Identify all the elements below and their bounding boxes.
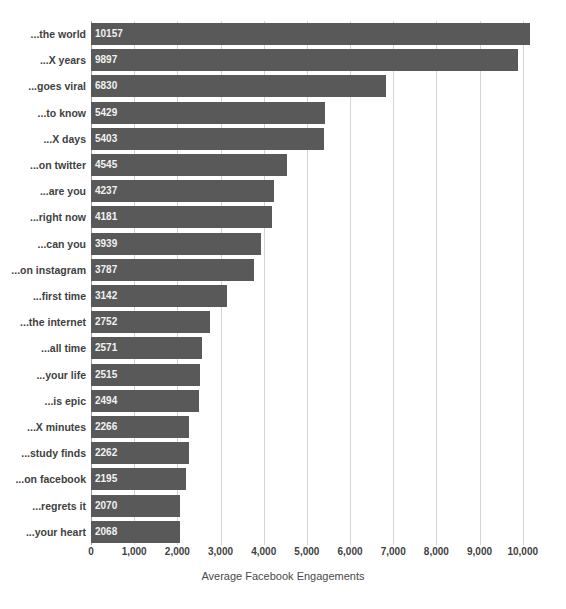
- bar-value-label: 2195: [95, 468, 117, 490]
- y-axis-label: ...the internet: [5, 309, 91, 335]
- table-row: 2494: [91, 388, 540, 414]
- bar: 2266: [91, 416, 189, 438]
- table-row: 3939: [91, 231, 540, 257]
- bar-value-label: 5403: [95, 128, 117, 150]
- table-row: 2266: [91, 414, 540, 440]
- bar: 2752: [91, 311, 210, 333]
- y-axis-label: ...your life: [5, 362, 91, 388]
- y-axis-label: ...on twitter: [5, 152, 91, 178]
- table-row: 10157: [91, 21, 540, 47]
- table-row: 5403: [91, 126, 540, 152]
- y-axis-label: ...your heart: [5, 519, 91, 545]
- y-axis-label: ...all time: [5, 335, 91, 361]
- bar-value-label: 10157: [95, 23, 123, 45]
- y-axis-label: ...are you: [5, 178, 91, 204]
- table-row: 2195: [91, 466, 540, 492]
- x-axis-tick-label: 2,000: [165, 546, 190, 557]
- bar: 4545: [91, 154, 287, 176]
- x-axis-tick-label: 0: [88, 546, 94, 557]
- bar-value-label: 2266: [95, 416, 117, 438]
- table-row: 6830: [91, 73, 540, 99]
- table-row: 2262: [91, 440, 540, 466]
- y-axis-label: ...can you: [5, 231, 91, 257]
- bar: 5403: [91, 128, 324, 150]
- x-axis-tick-label: 8,000: [424, 546, 449, 557]
- bar: 3787: [91, 259, 254, 281]
- bar-value-label: 4237: [95, 180, 117, 202]
- bar: 2515: [91, 364, 200, 386]
- bar: 2068: [91, 521, 180, 543]
- bar-value-label: 2262: [95, 442, 117, 464]
- bar-value-label: 5429: [95, 102, 117, 124]
- table-row: 5429: [91, 100, 540, 126]
- bar: 6830: [91, 75, 386, 97]
- table-row: 2571: [91, 335, 540, 361]
- bar-chart: ...the world...X years...goes viral...to…: [0, 0, 566, 609]
- bar: 2070: [91, 495, 180, 517]
- x-axis-tick-label: 7,000: [381, 546, 406, 557]
- bar-value-label: 2752: [95, 311, 117, 333]
- bar-value-label: 6830: [95, 75, 117, 97]
- bar-rows: 1015798976830542954034545423741813939378…: [91, 21, 540, 545]
- x-axis-ticks: 01,0002,0003,0004,0005,0006,0007,0008,00…: [91, 546, 540, 564]
- bar-value-label: 4181: [95, 206, 117, 228]
- x-axis-title: Average Facebook Engagements: [0, 570, 566, 582]
- bar-value-label: 2515: [95, 364, 117, 386]
- table-row: 2752: [91, 309, 540, 335]
- y-axis-label: ...first time: [5, 283, 91, 309]
- bar-value-label: 2571: [95, 337, 117, 359]
- y-axis-label: ...to know: [5, 100, 91, 126]
- bar-value-label: 3939: [95, 233, 117, 255]
- y-axis-label: ...the world: [5, 21, 91, 47]
- y-axis-label: ...X years: [5, 47, 91, 73]
- x-axis-tick-label: 10,000: [507, 546, 538, 557]
- y-axis-label: ...on facebook: [5, 466, 91, 492]
- bar: 4237: [91, 180, 274, 202]
- plot-area: 1015798976830542954034545423741813939378…: [91, 21, 540, 545]
- x-axis-tick-label: 4,000: [251, 546, 276, 557]
- table-row: 3787: [91, 257, 540, 283]
- table-row: 2070: [91, 493, 540, 519]
- bar-value-label: 3142: [95, 285, 117, 307]
- x-axis-tick-label: 1,000: [122, 546, 147, 557]
- bar-value-label: 3787: [95, 259, 117, 281]
- y-axis-label: ...goes viral: [5, 73, 91, 99]
- y-axis-label: ...X days: [5, 126, 91, 152]
- bar: 3142: [91, 285, 227, 307]
- x-axis-tick-label: 6,000: [338, 546, 363, 557]
- bar: 2494: [91, 390, 199, 412]
- y-axis-label: ...regrets it: [5, 493, 91, 519]
- bar: 2262: [91, 442, 189, 464]
- bar: 10157: [91, 23, 530, 45]
- table-row: 4237: [91, 178, 540, 204]
- y-axis-label: ...study finds: [5, 440, 91, 466]
- bar: 2195: [91, 468, 186, 490]
- bar: 9897: [91, 49, 518, 71]
- x-axis-tick-label: 5,000: [294, 546, 319, 557]
- table-row: 4545: [91, 152, 540, 178]
- bar: 3939: [91, 233, 261, 255]
- table-row: 3142: [91, 283, 540, 309]
- y-axis-category-labels: ...the world...X years...goes viral...to…: [0, 21, 91, 545]
- y-axis-label: ...right now: [5, 204, 91, 230]
- bar-value-label: 2070: [95, 495, 117, 517]
- x-axis-tick-label: 3,000: [208, 546, 233, 557]
- bar: 5429: [91, 102, 325, 124]
- bar-value-label: 9897: [95, 49, 117, 71]
- y-axis-label: ...on instagram: [5, 257, 91, 283]
- bar: 4181: [91, 206, 272, 228]
- bar-value-label: 2068: [95, 521, 117, 543]
- bar-value-label: 2494: [95, 390, 117, 412]
- bar-value-label: 4545: [95, 154, 117, 176]
- x-axis-tick-label: 9,000: [467, 546, 492, 557]
- table-row: 2068: [91, 519, 540, 545]
- y-axis-label: ...X minutes: [5, 414, 91, 440]
- y-axis-label: ...is epic: [5, 388, 91, 414]
- bar: 2571: [91, 337, 202, 359]
- table-row: 4181: [91, 204, 540, 230]
- table-row: 2515: [91, 362, 540, 388]
- chart-title: [0, 0, 566, 1]
- table-row: 9897: [91, 47, 540, 73]
